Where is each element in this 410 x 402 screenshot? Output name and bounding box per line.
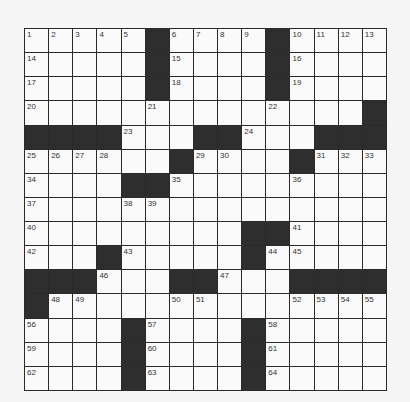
grid-cell[interactable] — [73, 319, 96, 342]
grid-cell[interactable]: 41 — [290, 222, 313, 245]
grid-cell[interactable]: 13 — [363, 29, 386, 52]
grid-cell[interactable] — [49, 101, 72, 124]
grid-cell[interactable] — [146, 126, 169, 149]
grid-cell[interactable] — [218, 77, 241, 100]
grid-cell[interactable]: 48 — [49, 294, 72, 317]
grid-cell[interactable] — [97, 294, 120, 317]
grid-cell[interactable]: 5 — [122, 29, 145, 52]
grid-cell[interactable]: 18 — [170, 77, 193, 100]
grid-cell[interactable]: 50 — [170, 294, 193, 317]
grid-cell[interactable]: 61 — [266, 343, 289, 366]
grid-cell[interactable] — [363, 77, 386, 100]
grid-cell[interactable] — [339, 367, 362, 390]
grid-cell[interactable] — [363, 174, 386, 197]
grid-cell[interactable] — [73, 367, 96, 390]
grid-cell[interactable] — [218, 294, 241, 317]
grid-cell[interactable] — [122, 101, 145, 124]
grid-cell[interactable] — [242, 294, 265, 317]
grid-cell[interactable]: 47 — [218, 270, 241, 293]
grid-cell[interactable] — [242, 174, 265, 197]
grid-cell[interactable] — [194, 246, 217, 269]
grid-cell[interactable]: 59 — [25, 343, 48, 366]
grid-cell[interactable] — [339, 246, 362, 269]
grid-cell[interactable] — [97, 77, 120, 100]
grid-cell[interactable] — [290, 198, 313, 221]
grid-cell[interactable] — [97, 53, 120, 76]
grid-cell[interactable] — [194, 343, 217, 366]
grid-cell[interactable]: 57 — [146, 319, 169, 342]
grid-cell[interactable] — [122, 77, 145, 100]
grid-cell[interactable] — [266, 294, 289, 317]
grid-cell[interactable]: 33 — [363, 150, 386, 173]
grid-cell[interactable]: 25 — [25, 150, 48, 173]
grid-cell[interactable] — [122, 222, 145, 245]
grid-cell[interactable] — [363, 367, 386, 390]
grid-cell[interactable] — [49, 174, 72, 197]
grid-cell[interactable] — [266, 150, 289, 173]
grid-cell[interactable] — [242, 150, 265, 173]
grid-cell[interactable] — [290, 367, 313, 390]
grid-cell[interactable] — [49, 53, 72, 76]
grid-cell[interactable]: 40 — [25, 222, 48, 245]
grid-cell[interactable] — [339, 343, 362, 366]
grid-cell[interactable]: 44 — [266, 246, 289, 269]
grid-cell[interactable] — [122, 270, 145, 293]
grid-cell[interactable] — [363, 246, 386, 269]
grid-cell[interactable] — [122, 53, 145, 76]
grid-cell[interactable] — [194, 174, 217, 197]
grid-cell[interactable] — [122, 294, 145, 317]
grid-cell[interactable] — [170, 319, 193, 342]
grid-cell[interactable]: 7 — [194, 29, 217, 52]
grid-cell[interactable]: 26 — [49, 150, 72, 173]
grid-cell[interactable]: 35 — [170, 174, 193, 197]
grid-cell[interactable] — [49, 343, 72, 366]
grid-cell[interactable] — [339, 222, 362, 245]
grid-cell[interactable] — [170, 222, 193, 245]
grid-cell[interactable]: 64 — [266, 367, 289, 390]
grid-cell[interactable] — [73, 77, 96, 100]
grid-cell[interactable] — [218, 198, 241, 221]
grid-cell[interactable] — [266, 198, 289, 221]
grid-cell[interactable]: 29 — [194, 150, 217, 173]
grid-cell[interactable] — [242, 101, 265, 124]
grid-cell[interactable] — [97, 222, 120, 245]
grid-cell[interactable] — [73, 198, 96, 221]
grid-cell[interactable]: 30 — [218, 150, 241, 173]
grid-cell[interactable] — [242, 198, 265, 221]
grid-cell[interactable] — [73, 246, 96, 269]
grid-cell[interactable] — [266, 126, 289, 149]
grid-cell[interactable]: 27 — [73, 150, 96, 173]
grid-cell[interactable]: 28 — [97, 150, 120, 173]
grid-cell[interactable] — [242, 270, 265, 293]
grid-cell[interactable]: 52 — [290, 294, 313, 317]
grid-cell[interactable] — [339, 319, 362, 342]
grid-cell[interactable]: 36 — [290, 174, 313, 197]
grid-cell[interactable] — [218, 222, 241, 245]
grid-cell[interactable] — [170, 101, 193, 124]
grid-cell[interactable]: 19 — [290, 77, 313, 100]
grid-cell[interactable]: 6 — [170, 29, 193, 52]
grid-cell[interactable] — [290, 126, 313, 149]
grid-cell[interactable] — [146, 222, 169, 245]
grid-cell[interactable]: 45 — [290, 246, 313, 269]
grid-cell[interactable] — [194, 198, 217, 221]
grid-cell[interactable] — [290, 343, 313, 366]
grid-cell[interactable] — [242, 77, 265, 100]
grid-cell[interactable] — [218, 367, 241, 390]
grid-cell[interactable]: 37 — [25, 198, 48, 221]
grid-cell[interactable] — [363, 343, 386, 366]
grid-cell[interactable] — [363, 53, 386, 76]
grid-cell[interactable] — [73, 53, 96, 76]
grid-cell[interactable] — [97, 343, 120, 366]
grid-cell[interactable] — [218, 343, 241, 366]
grid-cell[interactable] — [122, 150, 145, 173]
grid-cell[interactable]: 55 — [363, 294, 386, 317]
grid-cell[interactable]: 58 — [266, 319, 289, 342]
grid-cell[interactable] — [315, 367, 338, 390]
grid-cell[interactable]: 15 — [170, 53, 193, 76]
grid-cell[interactable] — [97, 367, 120, 390]
grid-cell[interactable] — [97, 174, 120, 197]
grid-cell[interactable] — [266, 270, 289, 293]
grid-cell[interactable]: 22 — [266, 101, 289, 124]
grid-cell[interactable] — [170, 198, 193, 221]
